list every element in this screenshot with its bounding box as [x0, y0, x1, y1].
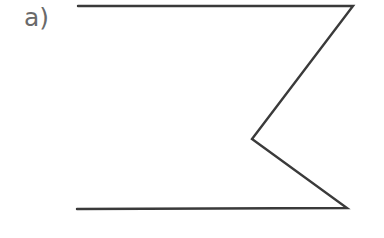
- zigzag-polyline: [77, 6, 353, 209]
- zigzag-diagram: [0, 0, 384, 238]
